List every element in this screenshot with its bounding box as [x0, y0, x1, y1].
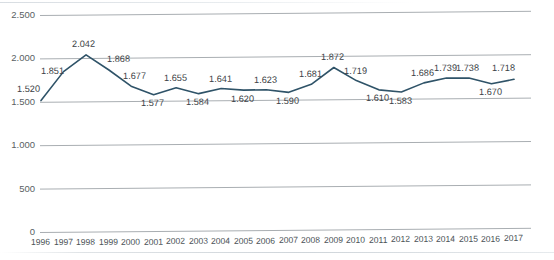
- data-label-1999: 1.868: [107, 54, 130, 64]
- x-tick-label: 2004: [211, 236, 230, 246]
- data-label-2009: 1.872: [321, 52, 344, 62]
- y-tick-label: 500: [0, 183, 35, 194]
- y-tick-label: 1.000: [0, 139, 35, 150]
- data-label-2008: 1.681: [299, 69, 322, 79]
- data-label-2007: 1.590: [276, 96, 299, 106]
- x-tick-label: 2009: [324, 235, 343, 245]
- data-label-2005: 1.620: [231, 93, 254, 103]
- y-tick-label: 0: [0, 226, 35, 237]
- data-label-2004: 1.641: [209, 73, 232, 83]
- data-label-2000: 1.677: [123, 71, 146, 81]
- gridline-500: [40, 185, 531, 189]
- x-tick-label: 2003: [189, 236, 208, 246]
- y-tick-label: 1.500: [0, 96, 35, 107]
- x-tick-label: 2016: [481, 233, 500, 243]
- data-label-2014: 1.739: [434, 63, 457, 73]
- x-tick-label: 2005: [234, 236, 253, 246]
- x-tick-label: 2000: [121, 237, 140, 247]
- x-tick-label: 2012: [391, 234, 410, 244]
- x-tick-label: 2017: [504, 233, 523, 243]
- y-tick-label: 2.000: [0, 52, 35, 63]
- data-label-1997: 1.851: [40, 65, 63, 75]
- data-label-2011: 1.610: [366, 93, 389, 103]
- x-tick-label: 2015: [459, 234, 478, 244]
- x-tick-label: 2011: [369, 234, 388, 244]
- gridline-0: [40, 228, 531, 232]
- data-label-2013: 1.686: [411, 68, 434, 78]
- data-label-2012: 1.583: [389, 95, 412, 105]
- gridlines: [40, 11, 531, 232]
- data-label-2001: 1.577: [141, 98, 164, 108]
- line-chart: 05001.0001.5002.0002.500 199619971998199…: [0, 0, 554, 260]
- x-tick-label: 2008: [301, 235, 320, 245]
- x-tick-label: 1996: [31, 237, 50, 247]
- x-tick-label: 2002: [166, 236, 185, 246]
- x-tick-label: 2006: [256, 235, 275, 245]
- data-label-2003: 1.584: [186, 97, 209, 107]
- data-label-2002: 1.655: [164, 72, 187, 82]
- x-tick-label: 1998: [76, 237, 95, 247]
- y-tick-label: 2.500: [0, 9, 35, 20]
- data-label-2017: 1.718: [492, 63, 515, 73]
- gridline-2.500: [40, 11, 531, 15]
- data-label-2006: 1.623: [254, 74, 277, 84]
- x-tick-label: 1997: [53, 237, 72, 247]
- x-tick-label: 1999: [99, 237, 118, 247]
- x-tick-label: 2001: [144, 236, 163, 246]
- x-tick-label: 2014: [436, 234, 455, 244]
- x-tick-label: 2010: [346, 235, 365, 245]
- data-label-2010: 1.719: [344, 65, 367, 75]
- x-tick-label: 2007: [279, 235, 298, 245]
- gridline-1.000: [40, 142, 531, 146]
- data-label-2016: 1.670: [479, 87, 502, 97]
- x-tick-label: 2013: [414, 234, 433, 244]
- data-label-1996: 1.520: [17, 83, 40, 93]
- data-label-1998: 2.042: [72, 39, 95, 49]
- data-label-2015: 1.738: [456, 63, 479, 73]
